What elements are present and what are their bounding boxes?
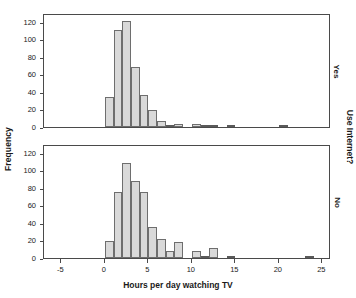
histogram-bar — [148, 110, 157, 127]
y-tick-label: 100 — [14, 167, 36, 175]
x-tick-mark — [60, 259, 61, 263]
y-tick-mark — [40, 206, 43, 207]
y-tick-label: 40 — [14, 89, 36, 97]
y-tick-mark — [40, 93, 43, 94]
histogram-bar — [131, 67, 140, 128]
y-tick-label: 80 — [14, 54, 36, 62]
panel-yes — [43, 14, 330, 128]
histogram-bar — [157, 239, 166, 258]
histogram-figure: Frequency -50510152025 Hours per day wat… — [0, 0, 356, 298]
histogram-bar — [122, 163, 131, 258]
histogram-bar — [148, 227, 157, 258]
y-tick-label: 20 — [14, 106, 36, 114]
histogram-bar — [140, 95, 149, 127]
y-tick-label: 0 — [14, 124, 36, 132]
histogram-bar — [157, 121, 166, 127]
y-tick-label: 0 — [14, 255, 36, 263]
y-tick-label: 80 — [14, 185, 36, 193]
histogram-bar — [201, 125, 210, 127]
histogram-bar — [174, 242, 183, 258]
x-tick-mark — [321, 259, 322, 263]
y-tick-mark — [40, 75, 43, 76]
y-tick-label: 120 — [14, 19, 36, 27]
y-tick-label: 40 — [14, 220, 36, 228]
y-tick-label: 60 — [14, 202, 36, 210]
histogram-bar — [209, 248, 218, 258]
panel-no — [43, 145, 330, 259]
histogram-bar — [140, 192, 149, 258]
histogram-bar — [131, 181, 140, 258]
histogram-bar — [114, 192, 123, 258]
y-tick-mark — [40, 171, 43, 172]
histogram-bar — [227, 125, 236, 127]
histogram-bar — [201, 256, 210, 258]
histogram-bar — [122, 21, 131, 127]
y-tick-mark — [40, 224, 43, 225]
y-axis-title: Frequency — [2, 0, 14, 298]
histogram-bar — [192, 124, 201, 128]
x-tick-mark — [191, 259, 192, 263]
histogram-bar — [114, 30, 123, 127]
x-tick-label: 10 — [176, 266, 206, 274]
histogram-bar — [105, 241, 114, 258]
histogram-bar — [166, 251, 175, 258]
histogram-bar — [209, 125, 218, 127]
x-tick-mark — [104, 259, 105, 263]
histogram-bar — [174, 124, 183, 128]
histogram-bar — [105, 97, 114, 127]
panel-label-yes: Yes — [332, 64, 341, 78]
y-tick-mark — [40, 58, 43, 59]
y-tick-mark — [40, 110, 43, 111]
x-tick-label: 15 — [219, 266, 249, 274]
y-tick-mark — [40, 154, 43, 155]
y-tick-mark — [40, 189, 43, 190]
panel-label-no: No — [332, 197, 341, 208]
histogram-bar — [279, 125, 288, 127]
y-tick-mark — [40, 128, 43, 129]
panel-group-label: Use Internet? — [345, 110, 355, 164]
histogram-bar — [192, 251, 201, 258]
y-tick-label: 120 — [14, 150, 36, 158]
x-tick-mark — [278, 259, 279, 263]
y-tick-mark — [40, 241, 43, 242]
x-tick-label: 5 — [132, 266, 162, 274]
x-tick-label: 20 — [263, 266, 293, 274]
y-tick-mark — [40, 40, 43, 41]
y-tick-label: 60 — [14, 71, 36, 79]
y-tick-mark — [40, 259, 43, 260]
y-tick-label: 20 — [14, 237, 36, 245]
y-tick-mark — [40, 23, 43, 24]
x-tick-mark — [147, 259, 148, 263]
histogram-bar — [166, 125, 175, 127]
x-tick-label: 25 — [306, 266, 336, 274]
x-tick-label: 0 — [89, 266, 119, 274]
histogram-bar — [227, 256, 236, 258]
x-tick-label: -5 — [45, 266, 75, 274]
y-tick-label: 100 — [14, 36, 36, 44]
histogram-bar — [305, 256, 314, 258]
x-tick-mark — [234, 259, 235, 263]
x-axis-title: Hours per day watching TV — [0, 280, 356, 290]
